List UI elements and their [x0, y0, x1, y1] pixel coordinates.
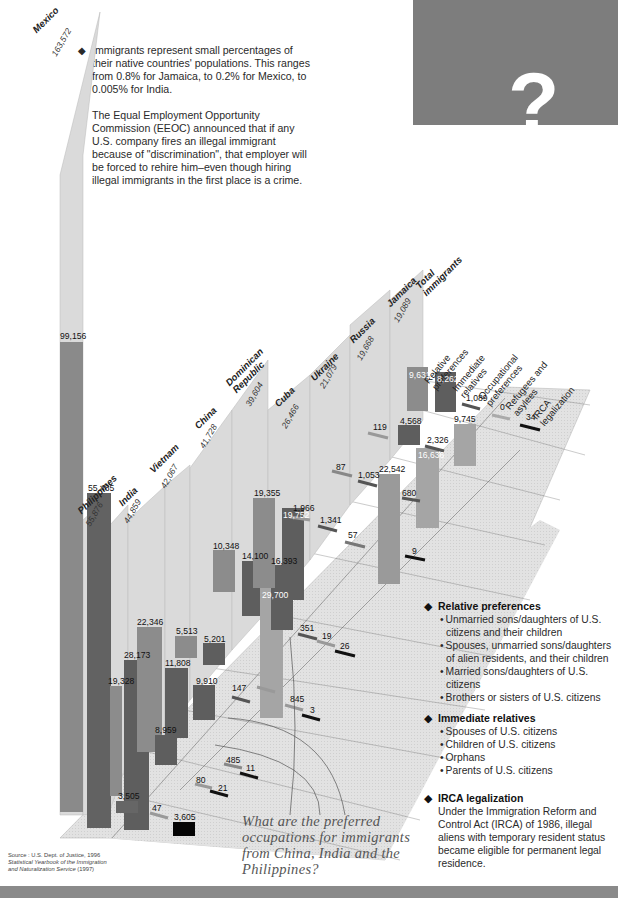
value-india-occupational: 8,959 [155, 725, 177, 735]
value-mexico-occupational: 3,505 [118, 791, 140, 801]
value-dominican-irca: 3 [310, 705, 315, 715]
value-351: 351 [300, 623, 314, 633]
value-jamaica-refugees: 0 [500, 402, 505, 412]
value-china-relative: 5,513 [176, 626, 198, 636]
legend-item: Children of U.S. citizens [438, 738, 618, 751]
value-russia-immediate: 4,568 [400, 416, 422, 426]
legend-immediate-relatives: ◆Immediate relatives Spouses of U.S. cit… [438, 712, 618, 777]
value-dominican-immediate: 14,100 [242, 551, 268, 561]
legend-item: Orphans [438, 751, 618, 764]
value-845: 845 [290, 694, 304, 704]
value-mexico-irca: 3,605 [174, 812, 196, 822]
value-philippines-irca: 21 [218, 783, 228, 793]
value-cuba-irca: 26 [340, 641, 350, 651]
diamond-bullet-icon: ◆ [424, 712, 432, 725]
value-ukraine-occupational: 22,542 [379, 464, 405, 474]
value-cuba-refugees: 1,341 [320, 515, 342, 525]
legend-irca-legalization: ◆IRCA legalization Under the Immigration… [438, 792, 618, 870]
value-india-refugees: 485 [226, 755, 240, 765]
value-jamaica-irca: 34 [526, 412, 536, 422]
question-caption: What are the preferred occupations for i… [242, 813, 412, 877]
bottom-bar [0, 886, 618, 898]
value-ukraine-relative: 87 [336, 462, 346, 472]
legend-item: Married sons/daughters of U.S. citizens [438, 665, 618, 691]
value-vietnam-relative: 22,346 [137, 617, 163, 627]
value-mexico-immediate: 99,156 [60, 331, 86, 341]
legend-item: Parents of U.S. citizens [438, 764, 618, 777]
value-india-relative: 19,328 [108, 676, 134, 686]
legend-relative-preferences: ◆Relative preferences Unmarried sons/dau… [438, 600, 618, 704]
value-philippines-immediate: 55,485 [88, 483, 114, 493]
legend-item: Spouses of U.S. citizens [438, 725, 618, 738]
value-india-irca: 11 [246, 763, 255, 773]
value-19: 19 [322, 631, 332, 641]
value-china-immediate: 5,201 [204, 634, 226, 644]
value-ukraine-irca: 9 [412, 546, 417, 556]
value-ukraine-immediate: 1,053 [358, 470, 380, 480]
value-russia-occupational: 2,326 [427, 435, 449, 445]
value-jamaica-immediate: 8,262 [437, 374, 459, 384]
value-vietnam-immediate: 11,808 [165, 658, 191, 668]
value-ukraine-refugees: 680 [402, 488, 416, 498]
value-india-immediate: 28,173 [124, 650, 150, 660]
value-dominican-refugees: 29,700 [262, 590, 288, 600]
value-cuba-relative: 19,355 [254, 488, 280, 498]
value-russia-refugees: 16,636 [418, 450, 444, 460]
value-vietnam-occupational: 9,910 [196, 676, 218, 686]
value-57: 57 [348, 530, 358, 540]
value-mexico-refugees: 47 [152, 803, 162, 813]
value-jamaica-occupational: 1,089 [466, 393, 488, 403]
value-jamaica-relative: 9,631 [409, 370, 431, 380]
legend-item: Unmarried sons/daughters of U.S. citizen… [438, 613, 618, 639]
value-dominican-relative: 10,348 [213, 541, 239, 551]
value-philippines-refugees: 80 [196, 775, 206, 785]
legend-item: Brothers or sisters of U.S. citizens [438, 691, 618, 704]
value-dominican-occupational: 16,393 [271, 556, 297, 566]
value-russia-irca: 9,745 [454, 414, 476, 424]
diamond-bullet-icon: ◆ [424, 600, 432, 613]
value-cuba-occupational: 1,966 [293, 503, 315, 513]
diamond-bullet-icon: ◆ [424, 792, 432, 805]
value-russia-relative: 119 [373, 422, 387, 432]
source-note: Source : U.S. Dept. of Justice, 1996 Sta… [8, 852, 107, 873]
value-china-occupational: 147 [232, 683, 246, 693]
legend-item: Spouses, unmarried sons/daughters of ali… [438, 639, 618, 665]
